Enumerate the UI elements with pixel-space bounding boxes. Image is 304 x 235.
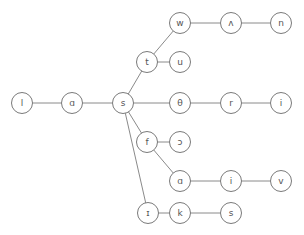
- node-label: ɔ: [178, 138, 183, 147]
- node-label: ɪ: [146, 209, 149, 218]
- node-label: r: [229, 99, 233, 108]
- trie-node: k: [169, 202, 191, 224]
- trie-node: u: [169, 51, 191, 73]
- trie-node: i: [220, 170, 242, 192]
- node-label: f: [145, 138, 148, 147]
- node-label: k: [177, 209, 182, 218]
- node-label: θ: [177, 99, 183, 108]
- edge: [123, 103, 148, 213]
- edge-layer: [0, 0, 304, 235]
- node-label: t: [145, 58, 149, 67]
- node-label: w: [176, 19, 183, 28]
- trie-node: ɑ: [61, 92, 83, 114]
- trie-node: s: [220, 202, 242, 224]
- trie-node: n: [270, 12, 292, 34]
- node-label: u: [177, 58, 183, 67]
- trie-node: t: [136, 51, 158, 73]
- trie-node: s: [112, 92, 134, 114]
- trie-node: ʌ: [220, 12, 242, 34]
- trie-node: l: [11, 92, 33, 114]
- node-label: s: [229, 209, 234, 218]
- trie-diagram: lɑstwʌnuθrifɔɑivɪks: [0, 0, 304, 235]
- node-label: s: [121, 99, 126, 108]
- trie-node: ɔ: [169, 131, 191, 153]
- trie-node: r: [220, 92, 242, 114]
- node-label: v: [278, 177, 283, 186]
- node-label: i: [230, 177, 233, 186]
- node-label: i: [280, 99, 283, 108]
- trie-node: w: [169, 12, 191, 34]
- trie-node: θ: [169, 92, 191, 114]
- trie-node: v: [270, 170, 292, 192]
- node-label: ɑ: [69, 99, 75, 108]
- trie-node: ɪ: [137, 202, 159, 224]
- node-label: n: [278, 19, 284, 28]
- node-label: ɑ: [177, 177, 183, 186]
- node-label: ʌ: [228, 19, 233, 28]
- trie-node: ɑ: [169, 170, 191, 192]
- trie-node: i: [270, 92, 292, 114]
- trie-node: f: [136, 131, 158, 153]
- node-label: l: [21, 99, 24, 108]
